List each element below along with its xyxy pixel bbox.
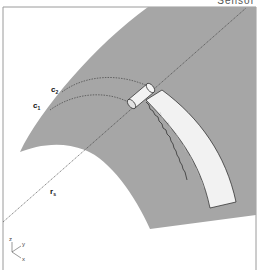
label-rs: rs — [50, 187, 56, 197]
axis-label-y: y — [22, 241, 25, 247]
y-axis-line — [12, 246, 21, 252]
axis-label-z: z — [9, 236, 12, 242]
axis-triad — [12, 242, 21, 258]
label-c2: c2 — [51, 85, 58, 95]
diagram-canvas: c2 c1 rs z y x — [0, 0, 259, 270]
label-c1: c1 — [33, 101, 40, 111]
axis-label-x: x — [22, 256, 25, 262]
x-axis-line — [12, 252, 21, 258]
